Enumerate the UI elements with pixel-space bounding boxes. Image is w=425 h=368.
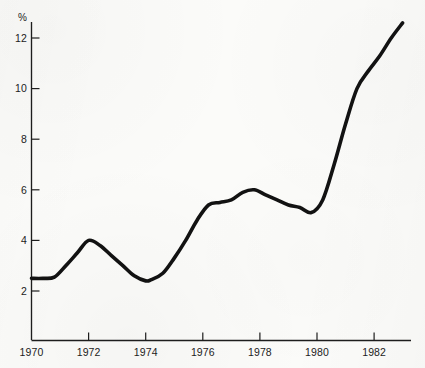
y-axis-ticks bbox=[32, 38, 40, 291]
y-axis: 24681012 % bbox=[15, 12, 39, 340]
line-chart-plot: 24681012 % 1970197219741976197819801982 bbox=[0, 0, 425, 368]
data-series-line bbox=[32, 23, 403, 281]
chart-figure: 24681012 % 1970197219741976197819801982 bbox=[0, 0, 425, 368]
y-tick-label-6: 6 bbox=[21, 184, 27, 196]
x-tick-label-1972: 1972 bbox=[77, 346, 101, 358]
y-axis-unit-label: % bbox=[18, 12, 27, 23]
x-tick-label-1982: 1982 bbox=[362, 346, 386, 358]
y-tick-label-10: 10 bbox=[15, 82, 27, 94]
y-tick-label-8: 8 bbox=[21, 133, 27, 145]
x-tick-label-1974: 1974 bbox=[134, 346, 158, 358]
y-tick-label-2: 2 bbox=[21, 285, 27, 297]
y-axis-tick-labels: 24681012 bbox=[15, 32, 27, 297]
x-axis-tick-labels: 1970197219741976197819801982 bbox=[20, 346, 386, 358]
y-tick-label-4: 4 bbox=[21, 234, 27, 246]
x-axis-ticks bbox=[89, 333, 375, 341]
x-tick-label-1976: 1976 bbox=[191, 346, 215, 358]
y-tick-label-12: 12 bbox=[15, 32, 27, 44]
x-tick-label-1970: 1970 bbox=[20, 346, 44, 358]
x-tick-label-1980: 1980 bbox=[305, 346, 329, 358]
x-tick-label-1978: 1978 bbox=[248, 346, 272, 358]
x-axis: 1970197219741976197819801982 bbox=[20, 333, 411, 359]
